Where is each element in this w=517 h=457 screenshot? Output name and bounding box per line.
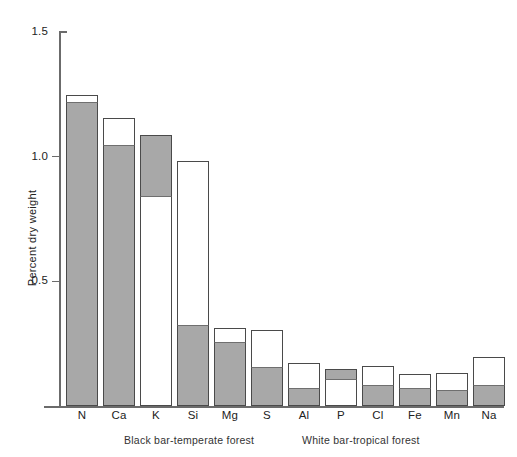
bar-mn xyxy=(436,373,468,406)
x-tick-label-cl: Cl xyxy=(362,409,394,422)
x-tick-label-s: S xyxy=(251,409,283,422)
plot-area: NCaKSiMgSAlPClFeMnNa xyxy=(0,0,517,457)
legend-black-bar: Black bar-temperate forest xyxy=(124,434,254,446)
bar-fill-black-temperate xyxy=(325,369,357,380)
bar-fill-black-temperate xyxy=(399,388,431,406)
x-tick-label-k: K xyxy=(140,409,172,422)
bar-chart: 1.51.00.5 Percent dry weight NCaKSiMgSAl… xyxy=(0,0,517,457)
x-tick-label-al: Al xyxy=(288,409,320,422)
bar-fill-black-temperate xyxy=(436,390,468,406)
bar-s xyxy=(251,330,283,406)
bar-fill-black-temperate xyxy=(140,135,172,197)
bar-na xyxy=(473,357,505,406)
bar-fill-black-temperate xyxy=(288,388,320,406)
bar-ca xyxy=(103,118,135,406)
bar-al xyxy=(288,363,320,406)
bar-k xyxy=(140,135,172,406)
bar-n xyxy=(66,95,98,406)
bar-fill-black-temperate xyxy=(214,342,246,406)
x-tick-label-si: Si xyxy=(177,409,209,422)
x-tick-label-n: N xyxy=(66,409,98,422)
x-tick-label-fe: Fe xyxy=(399,409,431,422)
x-tick-label-mn: Mn xyxy=(436,409,468,422)
bar-si xyxy=(177,161,209,406)
bar-cl xyxy=(362,366,394,406)
x-tick-label-p: P xyxy=(325,409,357,422)
legend-white-bar: White bar-tropical forest xyxy=(302,434,420,446)
bar-fill-black-temperate xyxy=(66,102,98,406)
x-tick-label-ca: Ca xyxy=(103,409,135,422)
bar-fill-black-temperate xyxy=(251,367,283,406)
bar-fe xyxy=(399,374,431,406)
bar-p xyxy=(325,369,357,406)
bar-fill-black-temperate xyxy=(103,145,135,406)
x-tick-label-mg: Mg xyxy=(214,409,246,422)
bar-fill-black-temperate xyxy=(473,385,505,406)
bar-fill-black-temperate xyxy=(177,325,209,406)
x-tick-label-na: Na xyxy=(473,409,505,422)
bar-mg xyxy=(214,328,246,406)
bar-fill-black-temperate xyxy=(362,385,394,406)
